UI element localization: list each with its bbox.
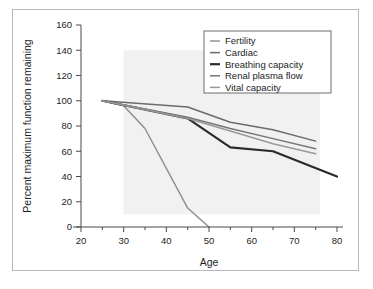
x-tick-label: 80 <box>332 235 343 246</box>
legend: FertilityCardiacBreathing capacityRenal … <box>204 31 331 93</box>
y-tick-label: 120 <box>56 70 72 81</box>
x-tick-label: 70 <box>289 235 300 246</box>
y-tick-label: 20 <box>61 196 72 207</box>
x-tick-label: 50 <box>204 235 215 246</box>
x-tick-group: 20304050607080 <box>76 227 343 246</box>
y-axis-title: Percent maximum function remaining <box>21 39 33 212</box>
y-tick-label: 160 <box>56 19 72 30</box>
x-tick-label: 20 <box>76 235 87 246</box>
y-tick-label: 100 <box>56 95 72 106</box>
legend-label: Fertility <box>225 35 256 46</box>
legend-label: Breathing capacity <box>225 59 303 70</box>
y-tick-label: 80 <box>61 120 72 131</box>
y-tick-label: 40 <box>61 171 72 182</box>
line-chart: 20304050607080 020406080100120140160 Age… <box>0 0 373 289</box>
x-axis-title: Age <box>200 256 219 268</box>
x-tick-label: 60 <box>246 235 257 246</box>
figure-container: 20304050607080 020406080100120140160 Age… <box>0 0 373 289</box>
y-tick-group: 020406080100120140160 <box>56 19 81 232</box>
x-tick-label: 30 <box>118 235 129 246</box>
y-tick-label: 60 <box>61 146 72 157</box>
y-tick-label: 140 <box>56 45 72 56</box>
x-tick-label: 40 <box>161 235 172 246</box>
legend-label: Vital capacity <box>225 82 281 93</box>
legend-label: Cardiac <box>225 47 258 58</box>
y-tick-label: 0 <box>67 221 72 232</box>
legend-label: Renal plasma flow <box>225 70 303 81</box>
